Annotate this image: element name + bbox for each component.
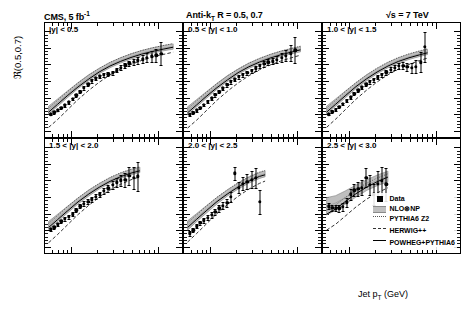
error-bar-cap	[258, 68, 261, 69]
error-bar-cap	[334, 211, 337, 212]
error-bar-cap	[341, 211, 344, 212]
error-bar-cap	[111, 75, 114, 76]
chart-panel-1: 0.5 < |y| < 1.0	[183, 22, 322, 138]
error-bar-cap	[222, 209, 225, 210]
error-bar-cap	[195, 228, 198, 229]
error-bar-cap	[56, 111, 59, 112]
error-bar-cap	[222, 202, 225, 203]
error-bar-cap	[150, 62, 153, 63]
error-bar-cap	[276, 56, 279, 57]
error-bar-cap	[229, 202, 232, 203]
error-bar-cap	[345, 198, 348, 199]
error-bar-cap	[285, 61, 288, 62]
error-bar-cap	[338, 212, 341, 213]
error-bar-cap	[338, 108, 341, 109]
error-bar-cap	[119, 70, 122, 71]
error-bar-cap	[376, 171, 379, 172]
error-bar-cap	[389, 72, 392, 73]
chart-panel-2: 1.0 < |y| < 1.5	[322, 22, 461, 138]
error-bar-cap	[141, 55, 144, 56]
chart-panel-5: 6010020010002.5 < |y| < 3.0DataNLO⊗NPPYT…	[322, 138, 461, 254]
error-bar-cap	[226, 207, 229, 208]
plot-area	[323, 23, 460, 137]
error-bar-cap	[195, 112, 198, 113]
error-bar-cap	[242, 177, 245, 178]
error-bar-cap	[381, 77, 384, 78]
error-bar-cap	[124, 173, 127, 174]
error-bar-cap	[67, 219, 70, 220]
error-bar-cap	[368, 175, 371, 176]
error-bar-cap	[160, 42, 163, 43]
legend-key-dashed	[373, 228, 386, 237]
error-bar-cap	[353, 95, 356, 96]
error-bar-cap	[237, 193, 240, 194]
error-bar-cap	[155, 49, 158, 50]
error-bar-cap	[254, 168, 257, 169]
error-bar-cap	[90, 202, 93, 203]
error-bar-cap	[263, 67, 266, 68]
error-bar-cap	[202, 223, 205, 224]
plot-area: 601002001000	[184, 139, 321, 253]
header-cms: CMS, 5 fb-1	[44, 10, 90, 22]
error-bar-cap	[115, 187, 118, 188]
error-bar-cap	[132, 65, 135, 66]
error-bar-cap	[83, 206, 86, 207]
error-bar-cap	[357, 182, 360, 183]
error-bar-cap	[103, 194, 106, 195]
error-bar-cap	[372, 184, 375, 185]
header-algorithm-post: R = 0.5, 0.7	[215, 10, 263, 20]
legend-label: Data	[389, 194, 404, 203]
error-bar-cap	[334, 111, 337, 112]
error-bar-cap	[254, 71, 257, 72]
error-bar-cap	[202, 106, 205, 107]
error-bar-cap	[94, 199, 97, 200]
error-bar-cap	[75, 97, 78, 98]
error-bar-cap	[365, 86, 368, 87]
series-layer	[45, 139, 183, 254]
error-bar-cap	[229, 192, 232, 193]
error-bar-cap	[67, 104, 70, 105]
error-bar-cap	[137, 162, 140, 163]
error-bar-cap	[267, 65, 270, 66]
error-bar-cap	[71, 100, 74, 101]
error-bar-cap	[218, 212, 221, 213]
error-bar-cap	[237, 79, 240, 80]
legend-item-3: HERWIG++	[373, 225, 455, 237]
error-bar-cap	[132, 167, 135, 168]
error-bar-cap	[345, 207, 348, 208]
error-bar-cap	[327, 115, 330, 116]
error-bar-cap	[60, 223, 63, 224]
error-bar-cap	[280, 62, 283, 63]
error-bar-cap	[83, 90, 86, 91]
error-bar-cap	[406, 63, 409, 64]
error-bar-cap	[63, 107, 66, 108]
error-bar-cap	[128, 167, 131, 168]
error-bar-cap	[119, 175, 122, 176]
error-bar-cap	[233, 180, 236, 181]
error-bar-cap	[289, 45, 292, 46]
error-bar-cap	[75, 212, 78, 213]
header-cms-text: CMS, 5 fb	[44, 12, 84, 22]
legend-item-1: NLO⊗NP	[373, 204, 455, 213]
legend-key-dotted	[373, 216, 386, 225]
error-bar-cap	[199, 109, 202, 110]
panel-label: 2.5 < |y| < 3.0	[327, 141, 376, 150]
error-bar-cap	[254, 188, 257, 189]
error-bar-cap	[393, 70, 396, 71]
error-bar-cap	[137, 64, 140, 65]
error-bar-cap	[128, 185, 131, 186]
panel-label: 1.5 < |y| < 2.0	[49, 141, 98, 150]
error-bar-cap	[226, 199, 229, 200]
error-bar-cap	[210, 218, 213, 219]
error-bar-cap	[63, 221, 66, 222]
error-bar-cap	[188, 236, 191, 237]
x-axis-label-post: (GeV)	[382, 289, 409, 299]
error-bar-cap	[385, 168, 388, 169]
error-bar-cap	[71, 216, 74, 217]
panel-label: 2.0 < |y| < 2.5	[188, 141, 237, 150]
error-bar-cap	[103, 77, 106, 78]
error-bar-cap	[250, 171, 253, 172]
error-bar-cap	[381, 167, 384, 168]
error-bar-cap	[349, 189, 352, 190]
error-bar-cap	[87, 86, 90, 87]
